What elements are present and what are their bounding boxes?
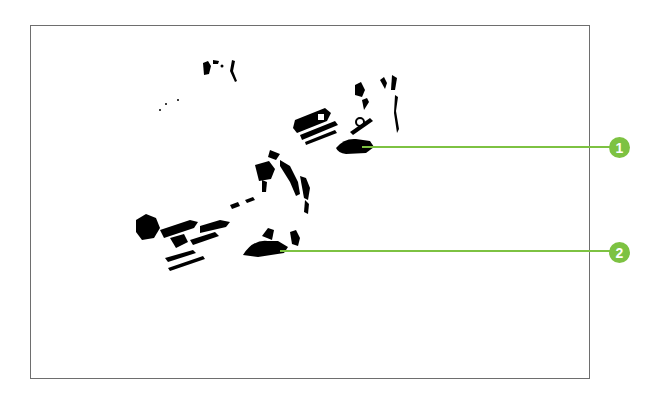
mechanical-assembly-illustration bbox=[0, 0, 669, 410]
callout-1-marker: 1 bbox=[609, 137, 630, 158]
callout-2-number: 2 bbox=[616, 246, 624, 260]
callout-1-number: 1 bbox=[616, 141, 624, 155]
callout-2-marker: 2 bbox=[609, 242, 630, 263]
